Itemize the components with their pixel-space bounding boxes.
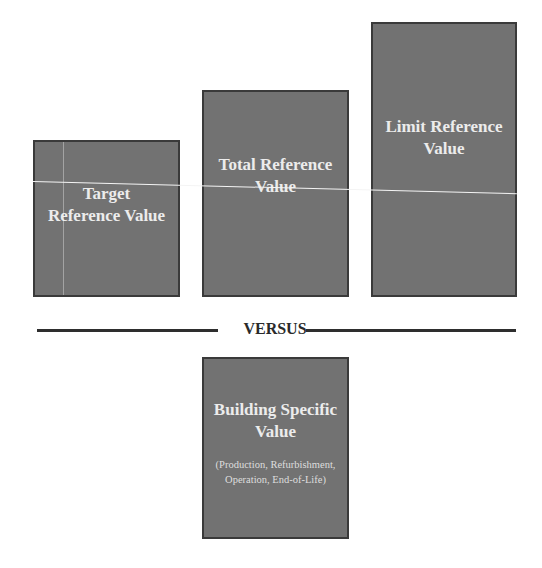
limit-reference-value-box: Limit Reference Value [371,22,517,297]
building-specific-value-label: Building Specific Value [206,399,346,443]
target-reference-value-label: Target Reference Value [47,183,167,227]
total-reference-value-label: Total Reference Value [206,154,346,198]
building-specific-value-box: Building Specific Value (Production, Ref… [202,357,349,539]
versus-label: VERSUS [234,320,316,338]
total-reference-value-box: Total Reference Value [202,90,349,297]
building-specific-value-sublabel: (Production, Refurbishment, Operation, E… [211,457,341,487]
target-reference-value-box: Target Reference Value [33,140,180,297]
limit-reference-value-label: Limit Reference Value [384,116,504,160]
versus-divider-right [306,329,516,332]
faint-vertical-line [63,142,64,295]
versus-divider-left [37,329,218,332]
